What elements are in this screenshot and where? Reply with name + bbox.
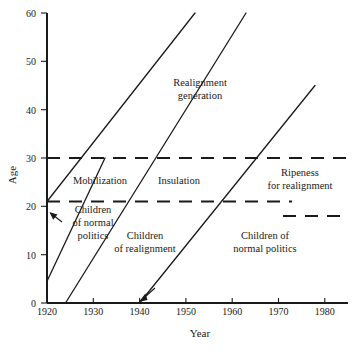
- label-line: of normal: [72, 217, 113, 228]
- y-tick-label: 20: [15, 201, 36, 212]
- y-tick-label: 50: [15, 56, 36, 67]
- label-insulation: Insulation: [158, 175, 200, 188]
- y-tick-label: 40: [15, 104, 36, 115]
- label-line: politics: [78, 229, 109, 240]
- y-tick-label: 60: [15, 8, 36, 19]
- label-line: for realignment: [267, 180, 332, 191]
- y-axis-title: Age: [6, 166, 18, 184]
- label-line: of realignment: [114, 243, 176, 254]
- x-tick-label: 1920: [37, 306, 57, 317]
- y-tick-label: 0: [22, 298, 36, 309]
- x-axis-title: Year: [190, 327, 210, 339]
- label-children-of-realignment: Children of realignment: [114, 230, 176, 256]
- x-tick-label: 1940: [130, 306, 150, 317]
- label-mobilization: Mobilization: [73, 175, 127, 188]
- label-line: generation: [178, 90, 222, 101]
- label-realignment-generation: Realignment generation: [173, 77, 227, 103]
- label-line: Children: [127, 230, 164, 241]
- label-line: normal politics: [233, 243, 296, 254]
- label-line: Children: [75, 204, 112, 215]
- label-ripeness-for-realignment: Ripeness for realignment: [267, 167, 332, 193]
- x-axis-ticks: [47, 298, 325, 303]
- x-tick-label: 1950: [176, 306, 196, 317]
- label-children-of-normal-politics-left: Children of normal politics: [72, 204, 113, 242]
- y-axis-ticks: [41, 13, 47, 303]
- label-line: Realignment: [173, 77, 227, 88]
- y-tick-label: 10: [15, 249, 36, 260]
- arrow-to-1940-cohort: [141, 288, 156, 301]
- cohort-line-2: [47, 13, 195, 202]
- chart-figure: 0 10 20 30 40 50 60 1920 1930 1940 1950 …: [0, 0, 361, 353]
- x-tick-label: 1930: [83, 306, 103, 317]
- label-line: Children of: [241, 230, 289, 241]
- arrow-to-1920-cohort: [51, 213, 63, 222]
- x-tick-label: 1980: [315, 306, 335, 317]
- x-tick-label: 1960: [222, 306, 242, 317]
- cohort-line-4: [140, 86, 315, 304]
- y-tick-label: 30: [15, 153, 36, 164]
- label-children-of-normal-politics-right: Children of normal politics: [233, 230, 296, 256]
- x-tick-label: 1970: [269, 306, 289, 317]
- label-line: Ripeness: [281, 167, 319, 178]
